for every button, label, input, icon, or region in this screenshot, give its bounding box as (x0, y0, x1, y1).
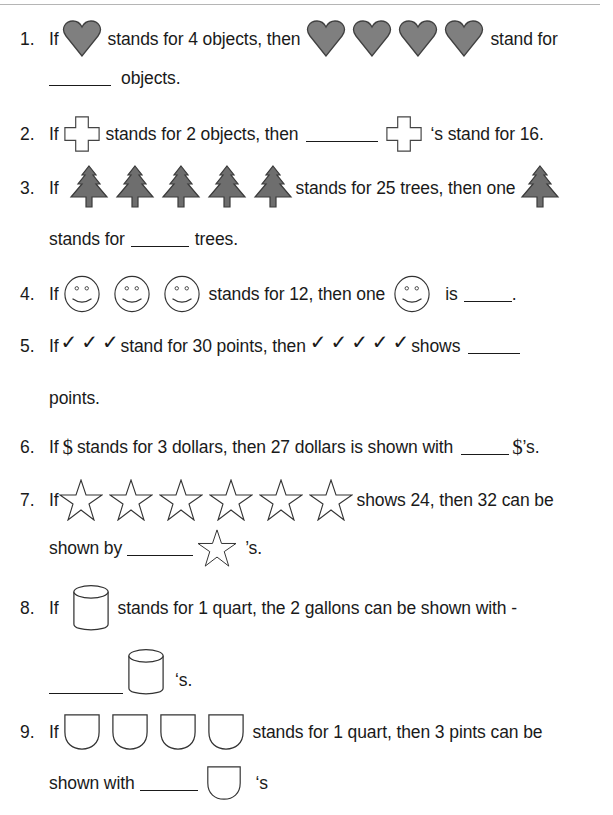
checkmark-icon: ✓ (310, 330, 327, 354)
question-text: is (445, 284, 457, 305)
dollar-icon: $ (512, 435, 522, 460)
question-text: stands for (49, 229, 125, 250)
question-number: 1. (20, 29, 34, 50)
question-number: 8. (20, 598, 34, 619)
star-outline-icon (197, 529, 237, 567)
question-text: ’s. (523, 437, 540, 458)
tree-icon (207, 165, 247, 211)
cup-icon (111, 713, 149, 751)
question-text: If (49, 284, 59, 305)
plus-outline-icon (64, 115, 100, 153)
smiley-icon (393, 275, 431, 313)
smiley-icon (63, 275, 101, 313)
cup-icon (207, 713, 245, 751)
question-text: shown by (49, 538, 122, 559)
question-text: If (49, 29, 59, 50)
heart-icon (62, 20, 102, 58)
question-text: stands for 1 quart, then 3 pints can be (253, 722, 543, 743)
question-number: 7. (20, 490, 34, 511)
answer-blank[interactable] (131, 232, 189, 247)
answer-blank[interactable] (461, 440, 509, 455)
question-number: 5. (20, 336, 34, 357)
tree-icon (115, 165, 155, 211)
question-text: ‘s stand for 16. (430, 124, 543, 145)
question-text: trees. (195, 229, 238, 250)
answer-blank[interactable] (140, 776, 198, 791)
answer-blank[interactable] (306, 127, 378, 142)
question-text: stands for 4 objects, then (108, 29, 301, 50)
plus-outline-icon (386, 115, 422, 153)
smiley-icon (113, 275, 151, 313)
question-text: shown with (49, 773, 135, 794)
question-text: stands for 3 dollars, then 27 dollars is… (77, 437, 453, 458)
heart-icon (444, 20, 484, 58)
dollar-icon: $ (63, 435, 73, 460)
question-text: If (49, 437, 59, 458)
question-text: If (49, 124, 59, 145)
question-text: stands for 1 quart, the 2 gallons can be… (118, 598, 517, 619)
question-text: objects. (121, 68, 181, 89)
question-text: If (49, 722, 59, 743)
checkmark-icon: ✓ (393, 330, 410, 354)
checkmark-icon: ✓ (102, 330, 119, 354)
cup-icon (159, 713, 197, 751)
star-outline-icon (209, 479, 253, 521)
cup-icon (63, 713, 101, 751)
smiley-icon (163, 275, 201, 313)
question-text: shows 24, then 32 can be (357, 490, 554, 511)
checkmark-icon: ✓ (81, 330, 98, 354)
question-text: If (49, 336, 59, 357)
question-text: shows (411, 336, 460, 357)
star-outline-icon (309, 479, 353, 521)
question-number: 2. (20, 124, 34, 145)
question-number: 9. (20, 722, 34, 743)
tree-icon (520, 165, 560, 211)
question-text: If (49, 598, 59, 619)
checkmark-icon: ✓ (61, 330, 78, 354)
question-text: ‘s. (175, 670, 192, 691)
checkmark-icon: ✓ (372, 330, 389, 354)
checkmark-icon: ✓ (331, 330, 348, 354)
question-number: 6. (20, 437, 34, 458)
checkmark-icon: ✓ (351, 330, 368, 354)
answer-blank[interactable] (49, 71, 111, 86)
tree-icon (69, 165, 109, 211)
question-text: ‘s (256, 773, 268, 794)
star-outline-icon (259, 479, 303, 521)
question-text: stand for 30 points, then (121, 336, 306, 357)
question-text: points. (49, 388, 100, 409)
answer-blank[interactable] (464, 287, 512, 302)
tree-icon (253, 165, 293, 211)
cylinder-icon (72, 584, 110, 632)
heart-icon (352, 20, 392, 58)
question-text: stand for (490, 29, 557, 50)
question-number: 3. (20, 178, 34, 199)
star-outline-icon (59, 479, 103, 521)
question-text: ’s. (245, 538, 262, 559)
tree-icon (161, 165, 201, 211)
question-text: . (512, 284, 517, 305)
answer-blank[interactable] (49, 679, 123, 694)
cylinder-icon (127, 648, 165, 696)
heart-icon (306, 20, 346, 58)
question-number: 4. (20, 284, 34, 305)
question-text: stands for 2 objects, then (106, 124, 299, 145)
question-text: If (49, 178, 59, 199)
heart-icon (398, 20, 438, 58)
answer-blank[interactable] (468, 339, 520, 354)
cup-icon (206, 765, 242, 801)
page-top-rule (0, 4, 600, 5)
question-text: stands for 25 trees, then one (296, 178, 516, 199)
star-outline-icon (109, 479, 153, 521)
question-text: If (49, 490, 59, 511)
answer-blank[interactable] (127, 541, 193, 556)
question-text: stands for 12, then one (209, 284, 386, 305)
star-outline-icon (159, 479, 203, 521)
